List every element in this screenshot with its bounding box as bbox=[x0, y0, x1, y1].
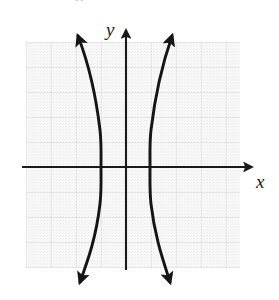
graph-canvas bbox=[0, 0, 279, 300]
grid-panel bbox=[26, 42, 240, 268]
y-axis-label: y bbox=[106, 20, 114, 39]
hyperbola-figure: y bbox=[0, 0, 279, 300]
x-axis-label: x bbox=[256, 172, 264, 191]
